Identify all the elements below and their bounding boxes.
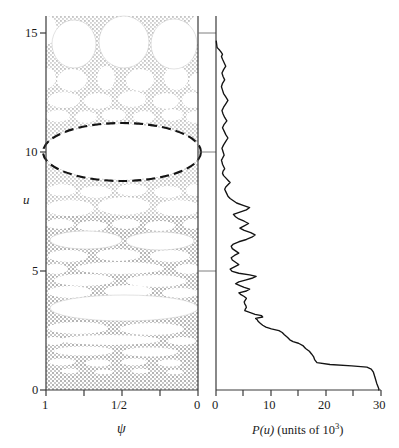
left-y-tick-15: 15 [25,26,38,41]
chaotic-sea-haze [46,16,198,216]
left-x-tick-half: 1/2 [111,398,127,413]
right-axis-label-close: ) [339,423,343,437]
left-panel-y-ticks [40,33,46,390]
left-y-tick-10: 10 [25,145,38,160]
right-x-tick-20: 20 [318,398,331,413]
probability-curve [216,41,379,390]
left-panel-stability-diagram [40,16,201,396]
left-x-tick-0: 0 [194,398,200,413]
right-panel-x-ticks [216,390,381,396]
right-panel-gridlines [198,33,216,271]
left-x-tick-1: 1 [42,398,48,413]
left-y-tick-0: 0 [32,383,38,398]
right-panel-x-axis-label: P(u) (units of 103) [252,421,343,438]
right-axis-label-pu: P(u) [252,423,274,437]
right-panel-distribution [198,16,381,396]
figure-canvas [0,0,399,448]
left-panel-y-axis-label: u [23,192,30,208]
dense-sea-bottom [46,374,198,390]
left-panel-x-axis-label: ψ [117,421,126,437]
right-axis-label-units: (units of 10 [277,423,335,437]
left-panel-x-ticks [46,390,198,396]
right-x-tick-0: 0 [212,398,218,413]
right-x-tick-30: 30 [373,398,386,413]
right-x-tick-10: 10 [263,398,276,413]
left-y-tick-5: 5 [32,264,38,279]
